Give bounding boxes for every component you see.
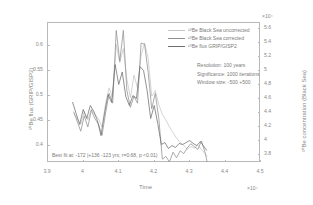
y-right-tick-label: 4.8 [264,80,271,86]
y-axis-right-label: ¹⁰Be concentration (Black Sea) [300,70,307,152]
tick-mark [258,98,261,99]
tick-mark [225,160,226,163]
legend-label: ¹⁰Be flux GRIP/GISP2 [188,42,237,50]
significance-text: Significance: 1000 iterations [197,70,260,79]
tick-mark [258,70,261,71]
x-axis-exponent: ×10⁴ [247,185,258,191]
y-left-tick-label: 0.5 [36,91,43,97]
legend-item[interactable]: ¹⁰Be flux GRIP/GISP2 [168,42,264,50]
y-axis-right-exponent: ×10⁴ [262,13,273,19]
parameters-annotation: Resolution: 100 years Significance: 1000… [197,61,260,87]
tick-mark [154,160,155,163]
tick-mark [47,145,50,146]
y-left-tick-label: 0.55 [33,66,43,72]
y-right-tick-label: 4 [264,136,267,142]
y-right-tick-label: 5 [264,66,267,72]
legend-item[interactable]: ¹⁰Be Black Sea corrected [168,34,264,42]
y-right-tick-label: 4.6 [264,94,271,100]
legend-label: ¹⁰Be Black Sea uncorrected [188,26,249,34]
figure: ¹⁰Be flux (GRIP/GISP2) ¹⁰Be concentratio… [0,0,313,205]
y-left-tick-label: 0.45 [33,116,43,122]
legend-item[interactable]: ¹⁰Be Black Sea uncorrected [168,26,264,34]
tick-mark [258,28,261,29]
tick-mark [258,112,261,113]
y-right-tick-label: 5.4 [264,38,271,44]
x-tick-label: 4.1 [114,168,121,174]
tick-mark [189,160,190,163]
tick-mark [47,70,50,71]
tick-mark [258,42,261,43]
y-right-tick-label: 3.8 [264,150,271,156]
x-tick-label: 4 [81,168,84,174]
tick-mark [258,140,261,141]
window-size-text: Window size: -500 +500 [197,78,260,87]
legend-swatch-line [168,38,185,39]
tick-mark [47,95,50,96]
legend-swatch-line [168,46,185,47]
y-right-tick-label: 4.4 [264,108,271,114]
y-left-tick-label: 0.4 [36,141,43,147]
tick-mark [118,160,119,163]
tick-mark [258,154,261,155]
y-right-tick-label: 5.6 [264,24,271,30]
series-line [73,65,207,151]
tick-mark [260,160,261,163]
tick-mark [47,45,50,46]
resolution-text: Resolution: 100 years [197,61,260,70]
tick-mark [258,126,261,127]
tick-mark [258,56,261,57]
series-line [74,43,208,156]
legend: ¹⁰Be Black Sea uncorrected ¹⁰Be Black Se… [168,26,264,50]
series-line [74,30,208,162]
tick-mark [47,160,48,163]
y-right-tick-label: 5.2 [264,52,271,58]
x-axis-label: Time [139,184,152,190]
y-left-tick-label: 0.6 [36,41,43,47]
x-tick-label: 4.4 [221,168,228,174]
tick-mark [83,160,84,163]
legend-swatch-line [168,30,185,31]
x-tick-label: 4.3 [185,168,192,174]
x-tick-label: 3.9 [43,168,50,174]
best-fit-annotation: Best fit at: -172 |+136 -123 yrs; r=0.68… [52,152,157,158]
tick-mark [47,120,50,121]
x-tick-label: 4.5 [256,168,263,174]
x-tick-label: 4.2 [150,168,157,174]
legend-label: ¹⁰Be Black Sea corrected [188,34,244,42]
y-right-tick-label: 4.2 [264,122,271,128]
tick-mark [258,84,261,85]
